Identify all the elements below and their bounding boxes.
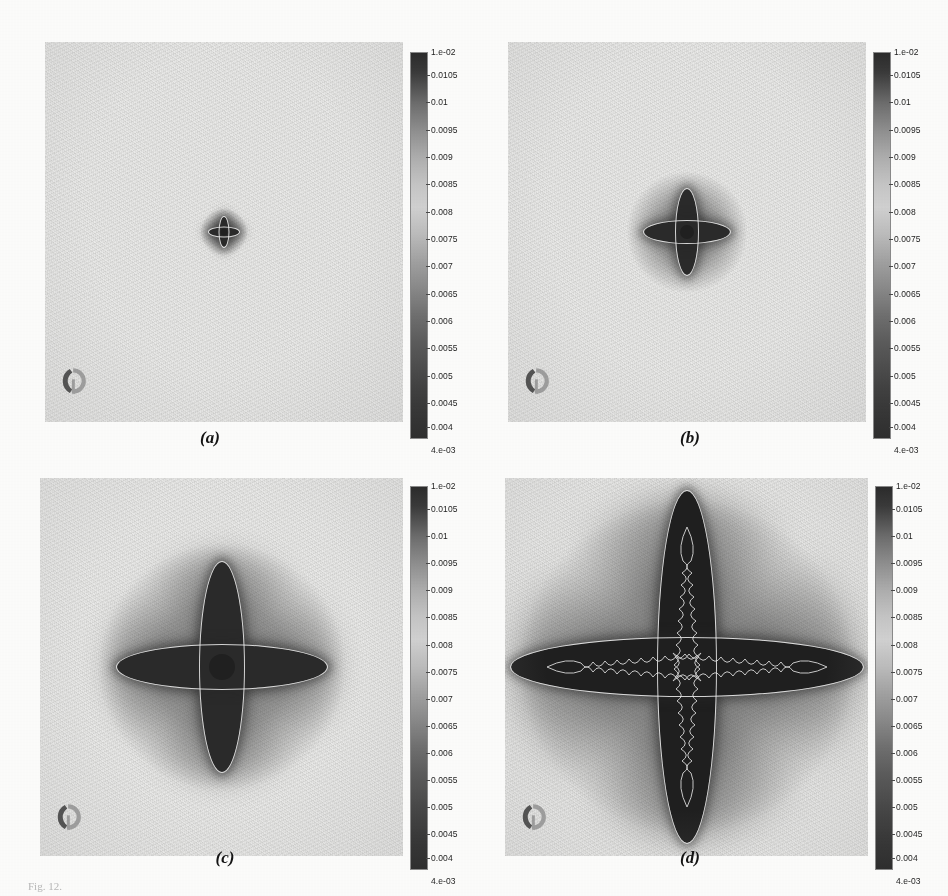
colorbar-tick: 0.0045: [891, 829, 923, 839]
panel-a-plot-area: [45, 42, 403, 422]
panel-a-colorbar: 1.e-02 0.0105 0.01 0.0095 0.009 0.0085 0…: [410, 52, 426, 437]
panel-c-logo: [52, 800, 86, 834]
panel-b-logo: [520, 364, 554, 398]
colorbar-tick-max: 1.e-02: [426, 47, 456, 57]
colorbar-tick: 0.0065: [889, 289, 921, 299]
colorbar-tick: 0.0085: [889, 179, 921, 189]
colorbar-tick: 0.0075: [426, 234, 458, 244]
colorbar-tick: 0.0055: [889, 343, 921, 353]
colorbar-tick: 0.0095: [426, 125, 458, 135]
colorbar-tick: 0.007: [426, 261, 453, 271]
colorbar-tick: 0.006: [426, 316, 453, 326]
colorbar-tick: 0.0045: [889, 398, 921, 408]
circular-split-logo-icon: [57, 364, 91, 398]
colorbar-tick: 0.0095: [891, 558, 923, 568]
panel-a-label: (a): [165, 428, 255, 448]
colorbar-tick: 0.0105: [889, 70, 921, 80]
panel-b-label: (b): [645, 428, 735, 448]
circular-split-logo-icon: [517, 800, 551, 834]
colorbar-tick: 0.007: [426, 694, 453, 704]
panel-b: 1.e-02 0.0105 0.01 0.0095 0.009 0.0085 0…: [508, 42, 903, 424]
circular-split-logo-icon: [520, 364, 554, 398]
colorbar-tick: 0.0065: [891, 721, 923, 731]
circular-split-logo-icon: [52, 800, 86, 834]
colorbar-tick-min: 4.e-03: [426, 445, 456, 455]
colorbar-tick: 0.004: [889, 422, 916, 432]
colorbar-tick: 0.0045: [426, 398, 458, 408]
colorbar-tick: 0.007: [889, 261, 916, 271]
panel-b-plot-area: [508, 42, 866, 422]
colorbar-tick: 0.004: [426, 422, 453, 432]
colorbar-tick: 0.0095: [426, 558, 458, 568]
colorbar-tick: 0.01: [891, 531, 913, 541]
colorbar-tick: 0.0085: [426, 179, 458, 189]
colorbar-tick: 0.005: [891, 802, 918, 812]
colorbar-tick: 0.007: [891, 694, 918, 704]
colorbar-tick-max: 1.e-02: [889, 47, 919, 57]
colorbar-tick: 0.005: [426, 802, 453, 812]
panel-c-plot-area: [40, 478, 403, 856]
colorbar-tick: 0.004: [426, 853, 453, 863]
colorbar-tick: 0.005: [889, 371, 916, 381]
colorbar-tick: 0.006: [889, 316, 916, 326]
panel-a: 1.e-02 0.0105 0.01 0.0095 0.009 0.0085 0…: [45, 42, 440, 424]
colorbar-tick: 0.008: [426, 207, 453, 217]
colorbar-tick: 0.0105: [426, 504, 458, 514]
colorbar-tick-min: 4.e-03: [891, 876, 921, 886]
colorbar-tick: 0.0095: [889, 125, 921, 135]
colorbar-tick: 0.0075: [426, 667, 458, 677]
figure-caption: Fig. 12.: [28, 880, 588, 894]
colorbar-tick-min: 4.e-03: [889, 445, 919, 455]
panel-d-colorbar-ticks: 1.e-02 0.0105 0.01 0.0095 0.009 0.0085 0…: [891, 486, 948, 868]
colorbar-tick: 0.009: [891, 585, 918, 595]
colorbar-tick: 0.0055: [891, 775, 923, 785]
colorbar-tick: 0.004: [891, 853, 918, 863]
colorbar-tick: 0.009: [426, 152, 453, 162]
panel-d-vignette: [505, 478, 868, 856]
colorbar-tick: 0.0085: [426, 612, 458, 622]
colorbar-tick: 0.0055: [426, 775, 458, 785]
colorbar-tick: 0.0075: [891, 667, 923, 677]
colorbar-tick: 0.005: [426, 371, 453, 381]
colorbar-tick: 0.009: [889, 152, 916, 162]
panel-c-colorbar: 1.e-02 0.0105 0.01 0.0095 0.009 0.0085 0…: [410, 486, 426, 868]
panel-c-colorbar-ticks: 1.e-02 0.0105 0.01 0.0095 0.009 0.0085 0…: [426, 486, 486, 868]
panel-d-plot-area: [505, 478, 868, 856]
colorbar-tick: 0.006: [426, 748, 453, 758]
panel-c-label: (c): [180, 848, 270, 868]
figure-2x2-heatmap-grid: 1.e-02 0.0105 0.01 0.0095 0.009 0.0085 0…: [0, 0, 948, 896]
colorbar-tick: 0.006: [891, 748, 918, 758]
colorbar-tick: 0.008: [891, 640, 918, 650]
colorbar-tick: 0.01: [889, 97, 911, 107]
colorbar-tick: 0.008: [889, 207, 916, 217]
panel-a-logo: [57, 364, 91, 398]
panel-d-colorbar: 1.e-02 0.0105 0.01 0.0095 0.009 0.0085 0…: [875, 486, 891, 868]
panel-d-label: (d): [645, 848, 735, 868]
panel-a-vignette: [45, 42, 403, 422]
colorbar-tick: 0.0065: [426, 289, 458, 299]
panel-b-colorbar: 1.e-02 0.0105 0.01 0.0095 0.009 0.0085 0…: [873, 52, 889, 437]
panel-c: 1.e-02 0.0105 0.01 0.0095 0.009 0.0085 0…: [40, 478, 440, 860]
colorbar-tick: 0.0065: [426, 721, 458, 731]
colorbar-tick: 0.008: [426, 640, 453, 650]
colorbar-tick: 0.0055: [426, 343, 458, 353]
colorbar-tick: 0.0045: [426, 829, 458, 839]
colorbar-tick: 0.009: [426, 585, 453, 595]
colorbar-tick-max: 1.e-02: [891, 481, 921, 491]
panel-d: 1.e-02 0.0105 0.01 0.0095 0.009 0.0085 0…: [505, 478, 905, 860]
colorbar-tick: 0.0085: [891, 612, 923, 622]
panel-b-colorbar-ticks: 1.e-02 0.0105 0.01 0.0095 0.009 0.0085 0…: [889, 52, 948, 437]
panel-d-logo: [517, 800, 551, 834]
colorbar-tick: 0.01: [426, 97, 448, 107]
colorbar-tick: 0.0075: [889, 234, 921, 244]
colorbar-tick: 0.01: [426, 531, 448, 541]
panel-c-vignette: [40, 478, 403, 856]
colorbar-tick: 0.0105: [891, 504, 923, 514]
colorbar-tick-max: 1.e-02: [426, 481, 456, 491]
panel-a-colorbar-ticks: 1.e-02 0.0105 0.01 0.0095 0.009 0.0085 0…: [426, 52, 486, 437]
colorbar-tick: 0.0105: [426, 70, 458, 80]
panel-b-vignette: [508, 42, 866, 422]
